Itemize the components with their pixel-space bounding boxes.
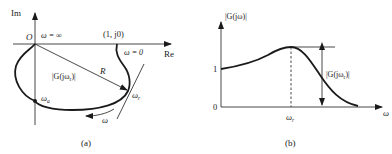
nyquist-plot-panel: Im Re O ω = ∞ (1, j0) ω = 0 R |G(jωr)| ω… [11, 8, 174, 148]
direction-arrow [86, 109, 114, 116]
origin-label: O [26, 32, 33, 42]
peak-magnitude-label: |G(jωr)| [326, 70, 350, 80]
im-axis-label: Im [11, 8, 21, 18]
omega-zero-label: ω = 0 [124, 48, 143, 57]
omega-a-point [33, 99, 37, 103]
omega-a-label: ωa [41, 93, 50, 104]
magnitude-omega-r-label: |G(jωr)| [52, 72, 76, 82]
direction-omega-label: ω [102, 115, 108, 125]
magnitude-axis-label: |G(jω)| [225, 12, 247, 21]
tangent-line [117, 64, 144, 119]
tick-zero-label: 0 [213, 102, 217, 112]
magnitude-plot-panel: |G(jω)| ω 1 0 ωr |G(jωr)| (b) [213, 12, 389, 148]
omega-r-label: ωr [132, 90, 141, 101]
caption-b: (b) [285, 138, 296, 148]
caption-a: (a) [81, 138, 91, 148]
frequency-response-diagram: Im Re O ω = ∞ (1, j0) ω = 0 R |G(jωr)| ω… [0, 0, 392, 154]
omega-axis-label: ω [383, 108, 389, 118]
radius-vector [35, 44, 127, 90]
omega-inf-label: ω = ∞ [41, 31, 62, 40]
omega-r-tick-label: ωr [286, 112, 295, 123]
radius-label: R [99, 66, 106, 76]
re-axis-label: Re [164, 49, 174, 59]
point-1-j0-label: (1, j0) [103, 29, 124, 39]
tick-one-label: 1 [213, 64, 217, 74]
